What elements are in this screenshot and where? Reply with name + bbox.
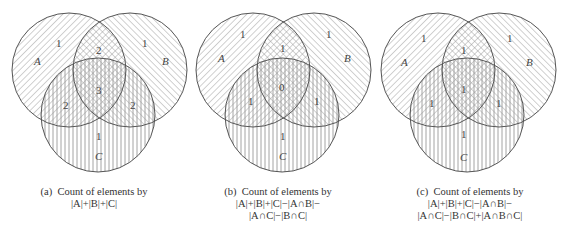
label-b: B <box>162 55 169 67</box>
caption-b-line1: (b) Count of elements by <box>186 186 370 198</box>
caption-a-formula: |A|+|B|+|C| <box>2 198 186 210</box>
region-c-only: 1 <box>96 130 102 142</box>
region-ab: 1 <box>280 42 286 54</box>
venn-diagram-c: 1 1 1 1 1 1 1 A B C <box>381 13 556 172</box>
region-ab: 1 <box>461 44 467 56</box>
label-a: A <box>400 56 408 68</box>
caption-b: (b) Count of elements by |A|+|B|+|C|−|A∩… <box>186 186 370 222</box>
region-b-only: 1 <box>142 37 148 49</box>
label-a: A <box>33 55 41 67</box>
region-ac: 2 <box>63 99 69 111</box>
caption-b-title: Count of elements by <box>242 186 332 197</box>
label-b: B <box>526 56 533 68</box>
label-c: C <box>460 151 468 163</box>
venn-diagrams: 1 1 2 3 2 2 1 A B C 1 1 1 0 1 1 1 A B C <box>0 0 564 185</box>
region-ac: 1 <box>248 95 254 107</box>
region-a-only: 1 <box>240 28 246 40</box>
region-bc: 1 <box>314 95 320 107</box>
caption-c-formula-2: |A∩C|−|B∩C|+|A∩B∩C| <box>378 210 562 222</box>
region-a-only: 1 <box>421 32 427 44</box>
caption-b-formula-2: |A∩C|−|B∩C| <box>186 210 370 222</box>
caption-a-line1: (a) Count of elements by <box>2 186 186 198</box>
region-bc: 2 <box>130 99 136 111</box>
region-abc: 0 <box>279 81 285 93</box>
region-abc: 3 <box>96 84 102 96</box>
region-a-only: 1 <box>56 37 62 49</box>
caption-a: (a) Count of elements by |A|+|B|+|C| <box>2 186 186 210</box>
region-c-only: 1 <box>280 130 286 142</box>
venn-diagram-a: 1 1 2 3 2 2 1 A B C <box>12 13 187 172</box>
region-b-only: 1 <box>507 32 513 44</box>
caption-c: (c) Count of elements by |A|+|B|+|C|−|A∩… <box>378 186 562 222</box>
region-c-only: 1 <box>461 128 467 140</box>
caption-b-prefix: (b) <box>224 186 236 197</box>
region-ab: 2 <box>96 44 102 56</box>
caption-c-formula-1: |A|+|B|+|C|−|A∩B|− <box>378 198 562 210</box>
label-c: C <box>95 150 103 162</box>
caption-b-formula-1: |A|+|B|+|C|−|A∩B|− <box>186 198 370 210</box>
caption-c-title: Count of elements by <box>433 186 523 197</box>
region-abc: 1 <box>461 83 467 95</box>
region-ac: 1 <box>429 97 435 109</box>
region-b-only: 1 <box>326 28 332 40</box>
venn-diagram-b: 1 1 1 0 1 1 1 A B C <box>196 13 371 172</box>
caption-a-title: Count of elements by <box>57 186 147 197</box>
region-bc: 1 <box>496 97 502 109</box>
label-c: C <box>279 150 287 162</box>
caption-a-prefix: (a) <box>40 186 52 197</box>
caption-c-line1: (c) Count of elements by <box>378 186 562 198</box>
label-b: B <box>344 52 351 64</box>
caption-c-prefix: (c) <box>416 186 428 197</box>
label-a: A <box>217 52 225 64</box>
